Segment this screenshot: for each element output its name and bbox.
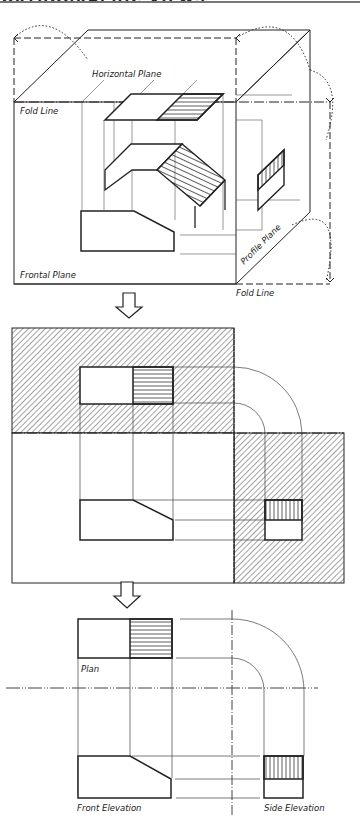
pictorial-view xyxy=(14,26,334,284)
unfolded-planes-view xyxy=(12,328,344,583)
orthographic-diagram: Horizontal Plane Fold Line Frontal Plane… xyxy=(0,0,360,815)
fold-arc-right-lower xyxy=(292,219,331,282)
front-elevation-view xyxy=(78,756,171,798)
label-side-elevation: Side Elevation xyxy=(264,803,325,813)
label-plan: Plan xyxy=(81,664,99,674)
label-horizontal-plane: Horizontal Plane xyxy=(92,69,161,79)
label-fold-line-left: Fold Line xyxy=(20,106,58,116)
label-front-elevation: Front Elevation xyxy=(77,803,142,813)
arrow-down-2-icon xyxy=(114,582,140,608)
plan-projection xyxy=(105,94,223,120)
fold-arc-top-left xyxy=(14,26,88,60)
arrow-down-1-icon xyxy=(116,293,142,318)
label-fold-line-bottom: Fold Line xyxy=(236,288,274,298)
fold-arc-right-upper xyxy=(310,70,333,140)
front-projection xyxy=(81,211,174,251)
final-views xyxy=(6,610,318,815)
fold-arc-top-right xyxy=(236,27,310,70)
label-frontal-plane: Frontal Plane xyxy=(20,270,76,280)
